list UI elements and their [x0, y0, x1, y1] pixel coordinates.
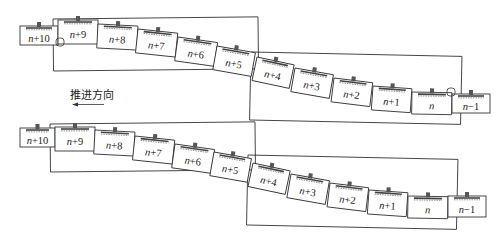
bolt-icon	[76, 16, 80, 21]
bolt-icon	[430, 88, 434, 93]
bolt-icon	[231, 151, 236, 157]
ring-label: n+8	[106, 140, 123, 152]
ring-segment: n+7	[132, 132, 175, 164]
bolt-icon	[426, 192, 430, 197]
bolt-icon	[308, 173, 313, 179]
ring-label: n+7	[148, 39, 165, 52]
ring-segment: n+5	[213, 42, 256, 76]
ring-label: n+8	[109, 34, 126, 46]
bolt-icon	[386, 187, 390, 192]
bottom-stage-diagram: n+10n+9n+8n+7n+6n+5n+4n+3n+2n+1nn−1	[20, 122, 486, 230]
ring-label: n+7	[145, 146, 162, 159]
bolt-icon	[116, 21, 120, 26]
ring-label: n+1	[383, 96, 400, 108]
bolt-icon	[469, 90, 473, 95]
ring-segment: n+10	[20, 22, 58, 45]
bolt-icon	[193, 143, 198, 149]
ring-label: n+6	[184, 155, 202, 168]
bolt-icon	[156, 27, 161, 32]
bolt-icon	[351, 76, 356, 81]
ring-segment: n−1	[448, 192, 486, 217]
ring-segment: n+1	[371, 82, 412, 113]
ring-label: n+9	[67, 136, 83, 147]
ring-label: n+9	[70, 29, 86, 40]
bolt-icon	[73, 123, 77, 128]
bolt-icon	[37, 22, 41, 27]
ring-segment: n+1	[367, 186, 408, 217]
bolt-icon	[312, 67, 317, 73]
ring-segment: n+8	[94, 126, 135, 156]
bolt-icon	[234, 45, 239, 51]
ring-label: n+2	[343, 88, 361, 101]
bolt-icon	[390, 83, 394, 88]
ring-segment: n+3	[291, 64, 334, 98]
ring-label: n+1	[379, 200, 396, 212]
ring-segment: n−1	[452, 90, 490, 113]
ring-segment: n+6	[175, 33, 219, 66]
ring-segment: n+4	[248, 159, 291, 194]
ring-segment: n	[408, 192, 448, 219]
bolt-icon	[153, 134, 158, 139]
ring-segment: n+9	[55, 123, 95, 151]
top-stage-diagram: n+10n+9n+8n+7n+6n+5n+4n+3n+2n+1nn−1	[20, 16, 490, 124]
ring-label: n	[425, 204, 430, 215]
ring-segment: n	[412, 88, 452, 115]
ring-label: n+6	[187, 48, 205, 61]
ring-segment: n+4	[252, 53, 295, 88]
ring-segment: n+2	[327, 179, 369, 212]
ring-segment: n+6	[172, 140, 216, 173]
ring-label: n+10	[28, 33, 50, 44]
ring-label: n−1	[463, 101, 479, 112]
ring-label: n	[429, 100, 434, 111]
ring-segment: n+3	[287, 170, 330, 204]
bolt-icon	[36, 124, 40, 129]
ring-segment: n+8	[97, 20, 138, 50]
direction-indicator: 推进方向	[70, 88, 114, 107]
shield-tunnel-diagram: n+10n+9n+8n+7n+6n+5n+4n+3n+2n+1nn−1 n+10…	[0, 0, 503, 242]
bolt-icon	[347, 181, 352, 186]
bolt-icon	[113, 127, 117, 132]
direction-label: 推进方向	[70, 88, 114, 102]
ring-segment: n+7	[135, 25, 178, 57]
ring-label: n−1	[459, 204, 475, 215]
ring-segment: n+5	[210, 148, 252, 182]
ring-label: n+10	[27, 135, 49, 146]
bolt-icon	[196, 36, 201, 42]
bolt-icon	[465, 192, 469, 197]
ring-segment: n+2	[331, 74, 373, 107]
ring-label: n+2	[339, 193, 357, 206]
direction-arrow-head	[72, 103, 78, 107]
